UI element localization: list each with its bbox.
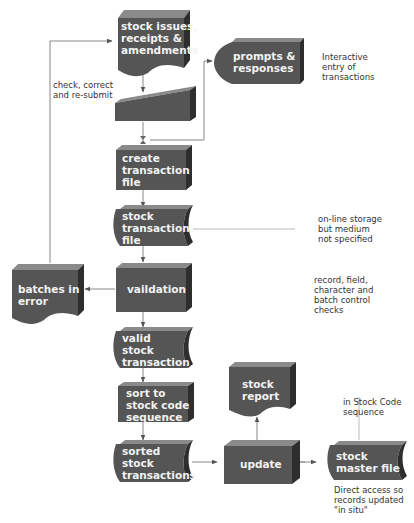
validation-label: vaildation: [127, 283, 186, 295]
valid-txn-label: valid stock transaction: [122, 332, 190, 368]
connectors: [50, 41, 359, 462]
sort-label: sort to stock code sequence: [126, 387, 189, 423]
stock-txn-file-label: stock transaction file: [122, 210, 190, 246]
node-manual-input: [115, 86, 196, 121]
create-label: create transaction file: [122, 152, 190, 188]
note-check-correct: check, correct and re-submit: [53, 80, 113, 100]
note-checks: record, field, character and batch contr…: [314, 275, 373, 315]
update-label: update: [240, 458, 282, 470]
sorted-label: sorted stock transactions: [122, 445, 196, 481]
junction-icon: [140, 136, 146, 144]
note-direct-access: Direct access so records updated "in sit…: [334, 485, 404, 515]
batches-error-label: batches in error: [18, 283, 79, 307]
stock-report-label: stock report: [242, 378, 279, 402]
note-interactive: Interactive entry of transactions: [322, 52, 374, 82]
note-stock-code-seq: in Stock Code sequence: [343, 397, 401, 417]
master-file-label: stock master file: [336, 450, 400, 474]
input-document-label: stock issues, receipts & amendments: [121, 20, 198, 56]
prompts-label: prompts & responses: [233, 50, 295, 74]
note-online-storage: on-line storage but medium not specified: [318, 214, 382, 244]
